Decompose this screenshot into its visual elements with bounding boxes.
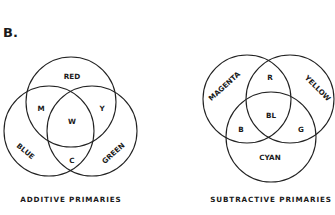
black-center-label: BL xyxy=(266,111,276,120)
yellow-circle xyxy=(246,55,334,143)
red-label: RED xyxy=(64,72,80,81)
green-label: GREEN xyxy=(100,141,126,166)
cyan-overlap-label: C xyxy=(69,156,74,165)
blue-label: BLUE xyxy=(15,141,37,161)
additive-caption: ADDITIVE PRIMARIES xyxy=(20,195,121,204)
cyan-circle xyxy=(226,92,316,182)
red-overlap-label: R xyxy=(267,73,273,82)
blue-overlap-label: B xyxy=(238,125,243,134)
figure-label: B. xyxy=(3,25,18,40)
magenta-overlap-label: M xyxy=(37,104,44,113)
magenta-label: MAGENTA xyxy=(207,69,243,102)
color-mixing-diagram: B. RED M Y W C BLUE GREEN ADDITIVE PRIMA… xyxy=(0,0,335,215)
subtractive-venn: MAGENTA YELLOW R BL B G CYAN SUBTRACTIVE… xyxy=(203,55,334,204)
red-circle xyxy=(26,57,116,147)
subtractive-caption: SUBTRACTIVE PRIMARIES xyxy=(210,195,332,204)
blue-circle xyxy=(4,86,94,176)
green-overlap-label: G xyxy=(298,125,304,134)
cyan-label: CYAN xyxy=(259,153,280,162)
white-center-label: W xyxy=(68,117,76,126)
additive-venn: RED M Y W C BLUE GREEN ADDITIVE PRIMARIE… xyxy=(4,57,137,204)
yellow-overlap-label: Y xyxy=(98,104,105,113)
green-circle xyxy=(47,86,137,176)
